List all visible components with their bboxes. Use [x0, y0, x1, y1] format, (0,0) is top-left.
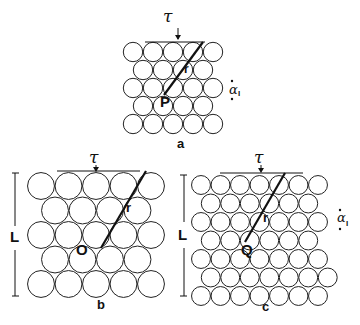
particle-circle: [28, 222, 55, 249]
diagram-canvas: τ r P a α I τ r O b L τ r Q c L α: [0, 0, 360, 325]
particle-circle: [240, 194, 259, 213]
particle-circle: [138, 222, 165, 249]
vector-line-b: [101, 171, 146, 248]
particle-circle: [299, 194, 318, 213]
particle-circle: [203, 78, 222, 97]
particle-circle: [143, 42, 162, 61]
particle-circle: [270, 287, 289, 306]
particle-circle: [203, 42, 222, 61]
particle-circle: [231, 213, 250, 232]
particle-circle: [124, 246, 151, 273]
particle-circle: [173, 96, 192, 115]
particle-circle: [318, 268, 337, 287]
particle-circle: [211, 250, 230, 269]
particle-circle: [97, 246, 124, 273]
particle-circle: [183, 114, 202, 133]
particle-circle: [270, 213, 289, 232]
vector-label-c: r: [263, 210, 268, 225]
particle-circle: [192, 287, 211, 306]
particle-circle: [28, 271, 55, 298]
svg-text:I: I: [238, 89, 240, 98]
svg-text:α: α: [337, 210, 346, 225]
particle-circle: [193, 96, 212, 115]
particle-circle: [163, 42, 182, 61]
particle-circle: [299, 231, 318, 250]
particle-circle: [193, 60, 212, 79]
spacing-marker-a: α I: [229, 80, 240, 100]
panel-a: [123, 42, 222, 133]
particle-circle: [299, 268, 318, 287]
particle-circle: [42, 197, 69, 224]
particle-circle: [69, 197, 96, 224]
svg-text:L: L: [178, 226, 187, 243]
stress-symbol-a: τ: [163, 6, 173, 26]
spacing-marker-c: α I: [337, 209, 348, 230]
particle-circle: [192, 176, 211, 195]
particle-circle: [231, 176, 250, 195]
vector-label-b: r: [126, 200, 131, 215]
particle-circle: [153, 60, 172, 79]
particle-circle: [289, 213, 308, 232]
particle-circle: [201, 194, 220, 213]
particle-circle: [211, 176, 230, 195]
particle-circle: [55, 271, 82, 298]
particle-circle: [28, 173, 55, 200]
particle-circle: [221, 268, 240, 287]
particle-circle: [260, 231, 279, 250]
particle-circle: [123, 114, 142, 133]
particle-circle: [211, 213, 230, 232]
panel-b: [28, 173, 165, 298]
panel-label-b: b: [97, 297, 105, 312]
particle-circle: [201, 268, 220, 287]
particle-circle: [309, 250, 328, 269]
particle-circle: [143, 114, 162, 133]
particle-circle: [183, 78, 202, 97]
particle-circle: [133, 60, 152, 79]
svg-text:L: L: [10, 228, 19, 245]
stress-symbol-b: τ: [89, 147, 99, 167]
particle-circle: [221, 194, 240, 213]
particle-circle: [163, 114, 182, 133]
particle-circle: [123, 42, 142, 61]
origin-point-c: Q: [241, 241, 253, 258]
particle-circle: [279, 268, 298, 287]
svg-text:α: α: [229, 82, 238, 97]
particle-circle: [97, 197, 124, 224]
particle-circle: [231, 287, 250, 306]
particle-circle: [250, 250, 269, 269]
vector-label-a: r: [184, 62, 189, 76]
particle-circle: [309, 287, 328, 306]
particle-circle: [123, 78, 142, 97]
particle-circle: [192, 213, 211, 232]
particle-circle: [55, 173, 82, 200]
particle-circle: [83, 173, 110, 200]
particle-circle: [138, 271, 165, 298]
particle-circle: [192, 250, 211, 269]
particle-circle: [289, 287, 308, 306]
particle-circle: [260, 268, 279, 287]
particle-circle: [270, 250, 289, 269]
particle-circle: [211, 287, 230, 306]
particle-circle: [309, 176, 328, 195]
particle-circle: [279, 231, 298, 250]
particle-circle: [289, 176, 308, 195]
svg-text:I: I: [346, 219, 348, 228]
panel-c: [192, 176, 338, 306]
particle-circle: [221, 231, 240, 250]
stress-arrowhead-c: [258, 168, 264, 173]
origin-point-a: P: [160, 93, 170, 110]
particle-circle: [309, 213, 328, 232]
panel-label-c: c: [262, 299, 269, 314]
length-bracket-b: L: [10, 173, 19, 296]
stress-arrowhead-a: [175, 35, 181, 40]
particle-circle: [83, 271, 110, 298]
length-bracket-c: L: [178, 175, 187, 296]
panel-label-a: a: [177, 136, 185, 151]
particle-circle: [250, 176, 269, 195]
particle-circle: [279, 194, 298, 213]
particle-circle: [201, 231, 220, 250]
particle-circle: [240, 268, 259, 287]
stress-symbol-c: τ: [254, 147, 264, 167]
particle-circle: [289, 250, 308, 269]
origin-point-b: O: [76, 241, 88, 258]
